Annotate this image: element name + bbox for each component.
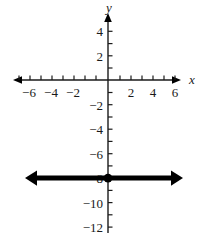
x-axis-left-arrowhead: [13, 76, 22, 84]
x-axis-label: x: [188, 72, 195, 87]
y-axis-group: 4 2 −2 −4 −6 −8 −10 −12 y: [83, 0, 113, 235]
plot-line-left-arrowhead: [25, 171, 37, 186]
plot-series-horizontal-line: [25, 171, 183, 186]
x-axis-group: −6 −4 −2 2 4 6 x: [13, 72, 195, 100]
x-axis-right-arrowhead: [172, 76, 181, 84]
graph-canvas: −6 −4 −2 2 4 6 x: [0, 0, 207, 236]
plot-line-right-arrowhead: [171, 171, 183, 186]
y-tick-label-4: 4: [97, 24, 104, 39]
plot-point-y-intercept: [104, 174, 113, 183]
y-axis-label: y: [104, 0, 112, 15]
x-tick-label-4: 4: [150, 85, 157, 100]
x-tick-label-neg2: −2: [66, 85, 80, 100]
y-tick-label-neg6: −6: [89, 147, 103, 162]
y-tick-label-neg4: −4: [89, 122, 103, 137]
x-tick-label-2: 2: [128, 85, 135, 100]
x-tick-label-6: 6: [172, 85, 179, 100]
x-tick-label-neg4: −4: [44, 85, 58, 100]
y-tick-label-neg12: −12: [83, 220, 103, 235]
y-tick-label-2: 2: [97, 49, 104, 64]
x-tick-label-neg6: −6: [22, 85, 36, 100]
coordinate-plane-figure: −6 −4 −2 2 4 6 x: [0, 0, 207, 236]
y-tick-label-neg2: −2: [89, 98, 103, 113]
y-tick-label-neg10: −10: [83, 196, 103, 211]
